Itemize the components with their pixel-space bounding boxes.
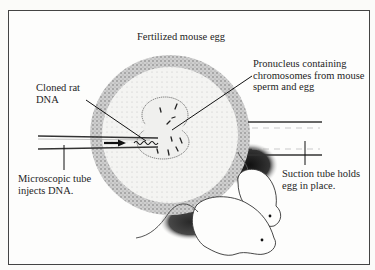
cloned-rat-dna-label: Cloned rat DNA — [36, 82, 80, 105]
pronucleus-label: Pronucleus containing chromosomes from m… — [253, 58, 364, 93]
suction-tube-label: Suction tube holds egg in place. — [282, 168, 360, 191]
title-label: Fertilized mouse egg — [137, 31, 225, 43]
microscopic-tube-label: Microscopic tube injects DNA. — [18, 173, 91, 196]
